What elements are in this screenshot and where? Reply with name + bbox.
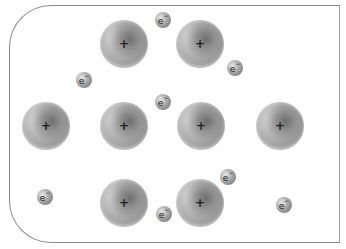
electron-symbol: e− xyxy=(230,61,241,74)
electron: e− xyxy=(220,169,236,185)
electron-symbol: e− xyxy=(223,170,234,183)
electron-symbol: e− xyxy=(158,95,169,108)
positive-ion: + xyxy=(256,102,304,150)
plus-icon: + xyxy=(195,38,205,50)
plus-icon: + xyxy=(119,120,129,132)
negative-charge-icon: − xyxy=(284,197,289,204)
electron-symbol: e− xyxy=(159,207,170,220)
electron: e− xyxy=(155,12,171,28)
plus-icon: + xyxy=(41,120,51,132)
electron: e− xyxy=(155,94,171,110)
electron-symbol: e− xyxy=(279,198,290,211)
positive-ion: + xyxy=(176,20,224,68)
negative-charge-icon: − xyxy=(163,12,168,19)
plus-icon: + xyxy=(195,197,205,209)
electron: e− xyxy=(37,189,53,205)
negative-charge-icon: − xyxy=(164,206,169,213)
positive-ion: + xyxy=(176,179,224,227)
negative-charge-icon: − xyxy=(45,189,50,196)
negative-charge-icon: − xyxy=(84,72,89,79)
electron: e− xyxy=(76,72,92,88)
plus-icon: + xyxy=(196,120,206,132)
plus-icon: + xyxy=(119,38,129,50)
plus-icon: + xyxy=(275,120,285,132)
electron-symbol: e− xyxy=(79,73,90,86)
positive-ion: + xyxy=(177,102,225,150)
electron-symbol: e− xyxy=(40,190,51,203)
positive-ion: + xyxy=(100,179,148,227)
electron: e− xyxy=(276,197,292,213)
positive-ion: + xyxy=(100,20,148,68)
electron: e− xyxy=(156,206,172,222)
electron-symbol: e− xyxy=(158,13,169,26)
negative-charge-icon: − xyxy=(235,60,240,67)
container-right-border xyxy=(339,5,340,243)
negative-charge-icon: − xyxy=(163,94,168,101)
electron: e− xyxy=(227,60,243,76)
positive-ion: + xyxy=(100,102,148,150)
negative-charge-icon: − xyxy=(228,169,233,176)
positive-ion: + xyxy=(22,102,70,150)
plus-icon: + xyxy=(119,197,129,209)
